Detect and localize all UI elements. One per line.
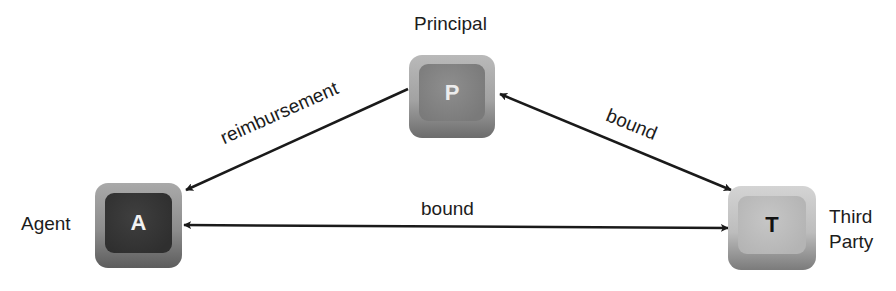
bound-label-agent-third-party: bound: [421, 198, 474, 220]
agent-glyph: A: [105, 193, 172, 253]
principal-glyph: P: [419, 64, 485, 121]
agent-node: A: [95, 183, 182, 268]
third-party-node: T: [728, 186, 816, 270]
third-party-label-line2: Party: [829, 231, 873, 253]
edge-agent-third-party: [184, 225, 728, 228]
principal-label: Principal: [414, 13, 487, 35]
agent-label: Agent: [21, 213, 71, 235]
third-party-glyph: T: [738, 196, 806, 254]
third-party-label-line1: Third: [829, 206, 872, 228]
principal-node: P: [409, 55, 495, 138]
